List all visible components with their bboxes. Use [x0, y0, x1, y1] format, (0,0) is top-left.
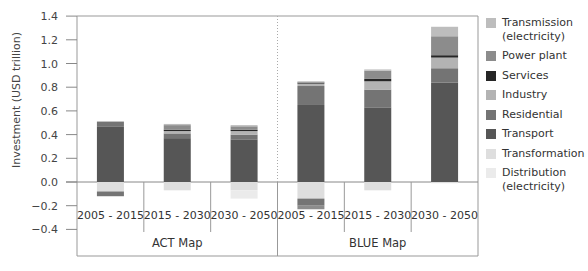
bar-segment	[364, 90, 391, 108]
legend-swatch-icon	[486, 110, 496, 120]
bar-segment	[231, 182, 258, 190]
bar-segment	[231, 190, 258, 198]
bar-segment	[231, 130, 258, 131]
bar-segment	[364, 107, 391, 182]
bar-segment	[231, 131, 258, 135]
legend-item: Transformation	[486, 147, 588, 161]
y-tick-label: −0.2	[31, 200, 58, 213]
bar-segment	[164, 133, 191, 138]
y-tick-label: 0.4	[41, 129, 59, 142]
category-label: 2015 - 2030	[144, 209, 211, 222]
category-label: 2015 - 2030	[344, 209, 411, 222]
bar-segment	[164, 124, 191, 125]
category-label: 2030 - 2050	[411, 209, 478, 222]
legend-item: Industry	[486, 88, 588, 102]
bar-segment	[164, 131, 191, 133]
bar-segment	[431, 27, 458, 36]
bar-segment	[431, 36, 458, 55]
bar-segment	[97, 122, 124, 127]
legend-label: Transmission (electricity)	[502, 16, 588, 43]
bar-segment	[297, 182, 324, 199]
legend-swatch-icon	[486, 18, 496, 28]
legend-item: Power plant	[486, 49, 588, 63]
legend-item: Transport	[486, 127, 588, 141]
bar-segment	[431, 55, 458, 57]
bar-segment	[164, 182, 191, 190]
bar-segment	[164, 130, 191, 131]
bar-segment	[297, 86, 324, 105]
bar-segment	[431, 82, 458, 182]
bar-segment	[431, 68, 458, 82]
legend-swatch-icon	[486, 51, 496, 61]
bar-segment	[164, 125, 191, 130]
legend-swatch-icon	[486, 149, 496, 159]
bar-segment	[364, 69, 391, 70]
bar-segment	[364, 79, 391, 81]
legend-label: Transformation	[502, 147, 585, 161]
legend-label: Distribution (electricity)	[502, 166, 588, 193]
legend-item: Transmission (electricity)	[486, 16, 588, 43]
bar-segment	[297, 199, 324, 206]
bar-segment	[364, 81, 391, 89]
legend-item: Distribution (electricity)	[486, 166, 588, 193]
bar-segment	[297, 105, 324, 182]
legend-swatch-icon	[486, 168, 496, 178]
y-tick-label: 0.2	[41, 152, 59, 165]
y-tick-label: 0.0	[41, 176, 59, 189]
y-tick-label: 1.0	[41, 58, 59, 71]
group-label: BLUE Map	[349, 236, 406, 250]
legend-label: Power plant	[502, 49, 567, 63]
bar-segment	[297, 84, 324, 86]
category-label: 2005 - 2015	[277, 209, 344, 222]
y-axis-label: Investment (USD trillion)	[10, 32, 23, 168]
category-label: 2005 - 2015	[77, 209, 144, 222]
bar-segment	[231, 135, 258, 140]
bar-segment	[231, 125, 258, 126]
group-label: ACT Map	[152, 236, 203, 250]
y-tick-label: 0.8	[41, 81, 59, 94]
bar-segment	[431, 182, 458, 183]
legend-label: Industry	[502, 88, 547, 102]
legend: Transmission (electricity)Power plantSer…	[486, 16, 588, 199]
y-tick-label: 0.6	[41, 105, 59, 118]
legend-swatch-icon	[486, 71, 496, 81]
bar-segment	[231, 126, 258, 130]
legend-swatch-icon	[486, 129, 496, 139]
category-label: 2030 - 2050	[211, 209, 278, 222]
bar-segment	[297, 82, 324, 83]
legend-item: Services	[486, 69, 588, 83]
legend-item: Residential	[486, 108, 588, 122]
y-tick-label: −0.4	[31, 223, 58, 236]
bar-segment	[364, 71, 391, 79]
bar-segment	[164, 138, 191, 182]
legend-swatch-icon	[486, 90, 496, 100]
bar-segment	[97, 191, 124, 196]
legend-label: Services	[502, 69, 548, 83]
bar-segment	[231, 139, 258, 182]
bar-segment	[97, 182, 124, 191]
legend-label: Residential	[502, 108, 563, 122]
bar-segment	[364, 182, 391, 190]
legend-label: Transport	[502, 127, 554, 141]
y-tick-label: 1.2	[41, 34, 59, 47]
bar-segment	[431, 58, 458, 69]
bar-segment	[297, 81, 324, 82]
bar-segment	[97, 126, 124, 182]
y-tick-label: 1.4	[41, 10, 59, 23]
